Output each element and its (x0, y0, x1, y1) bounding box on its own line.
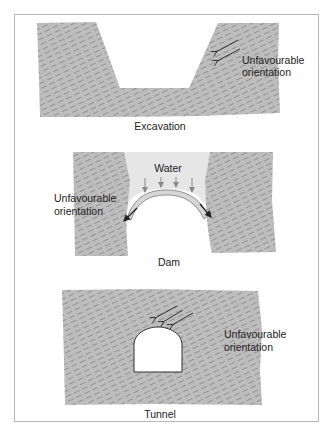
water-region (124, 152, 210, 205)
tunnel-caption: Tunnel (144, 408, 176, 420)
dam-caption: Dam (158, 256, 180, 268)
dam-annotation-line2: orientation (54, 205, 103, 217)
dam-left-rock (73, 152, 130, 256)
excavation-annotation-line1: Unfavourable (242, 54, 304, 66)
dam-annotation-line1: Unfavourable (54, 192, 116, 204)
tunnel-annotation-line2: orientation (224, 341, 273, 353)
dam-right-rock (205, 152, 276, 253)
tunnel-opening (134, 327, 182, 372)
water-label: Water (154, 162, 182, 174)
excavation-caption: Excavation (134, 120, 185, 132)
excavation-annotation-line2: orientation (242, 66, 291, 78)
tunnel-annotation-line1: Unfavourable (224, 328, 286, 340)
